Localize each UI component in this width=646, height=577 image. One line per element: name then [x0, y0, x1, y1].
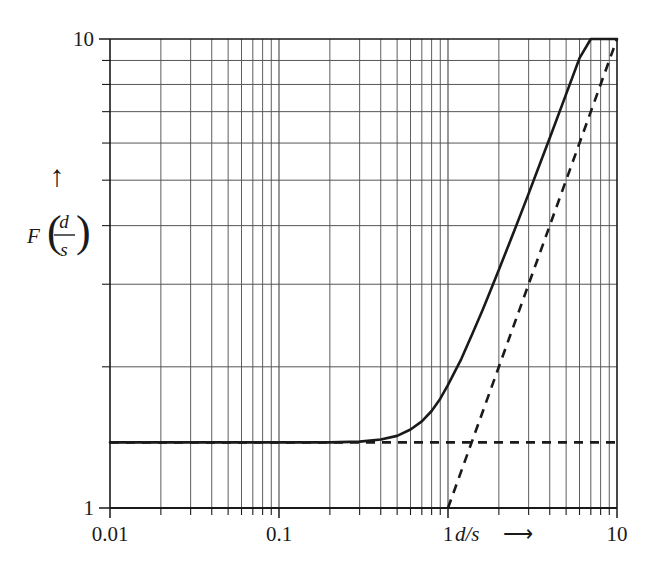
- x-tick-label: 1: [443, 522, 454, 546]
- x-tick-label: 10: [607, 522, 628, 546]
- chart-canvas: 0.010.1110 110 d/s ⟶ ↑ F ( d s ): [0, 0, 646, 577]
- y-axis-arrow-icon: ↑: [50, 159, 65, 192]
- y-axis-label-numerator: d: [59, 211, 69, 232]
- x-axis-label-text: d/s: [455, 522, 480, 546]
- y-axis-label-denominator: s: [60, 239, 67, 260]
- y-tick-label: 1: [84, 496, 95, 520]
- x-axis-arrow-icon: ⟶: [503, 522, 533, 546]
- x-tick-label: 0.1: [266, 522, 292, 546]
- y-tick-label: 10: [73, 27, 94, 51]
- log-log-chart-figure: 0.010.1110 110 d/s ⟶ ↑ F ( d s ): [0, 0, 646, 577]
- y-axis-label-paren-close: ): [76, 207, 91, 256]
- y-axis-label-function: F: [26, 224, 40, 248]
- chart-background: [0, 0, 646, 577]
- x-tick-label: 0.01: [92, 522, 129, 546]
